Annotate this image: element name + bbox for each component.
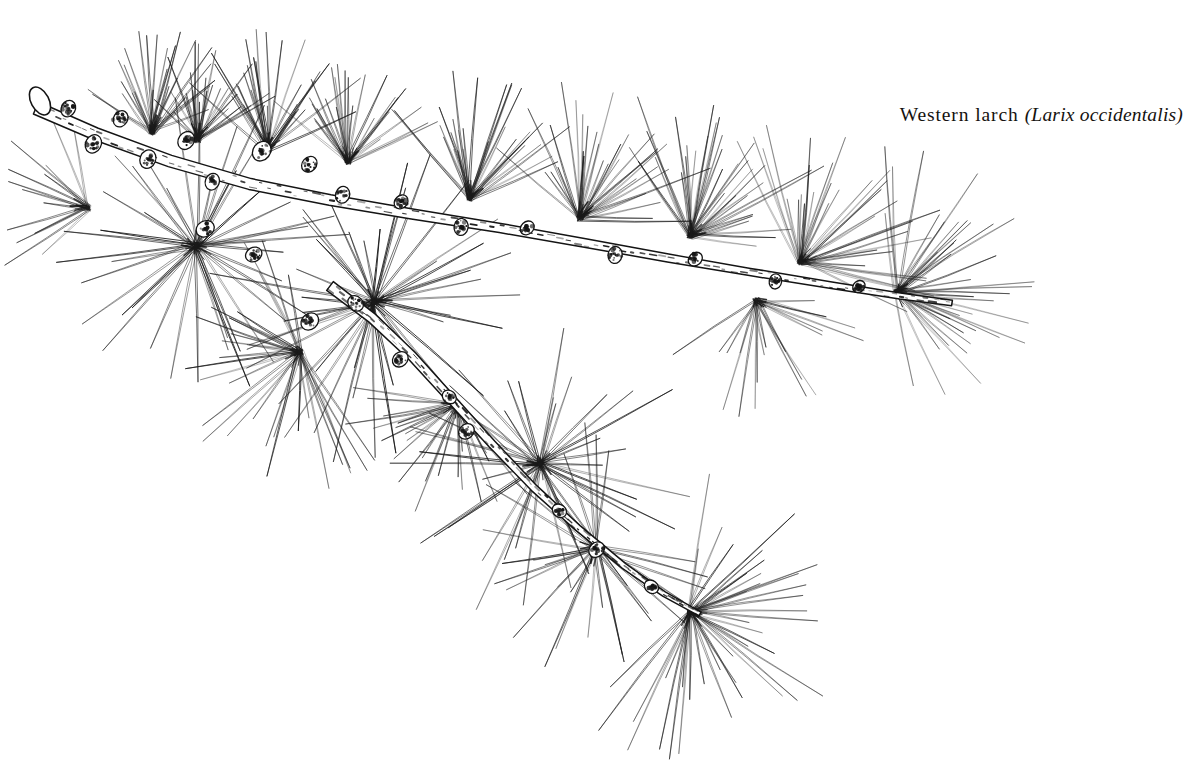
species-caption: Western larch(Larix occidentalis) bbox=[900, 105, 1183, 125]
scientific-name-label: (Larix occidentalis) bbox=[1025, 104, 1183, 125]
illustration-plate: Western larch(Larix occidentalis) bbox=[0, 0, 1186, 784]
needle-layer bbox=[5, 29, 1035, 759]
common-name-label: Western larch bbox=[900, 104, 1019, 125]
stem-layer bbox=[33, 102, 952, 616]
